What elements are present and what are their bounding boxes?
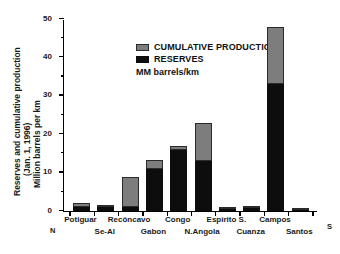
legend-swatch-reserves (136, 56, 149, 63)
bar-potiguar (73, 203, 90, 211)
plot-area: CUMULATIVE PRODUCTION RESERVES MM barrel… (63, 20, 317, 212)
bar-gabon (146, 160, 163, 211)
legend-entry-reserves: RESERVES (136, 54, 277, 64)
y-tick-minor (61, 191, 64, 192)
y-tick-label: 0 (48, 205, 52, 214)
y-tick-major: 10 (59, 171, 64, 172)
bar-santos (292, 208, 309, 211)
y-axis-title-line-2: (Jan. 1, 1996) (22, 123, 32, 176)
bar-segment-reserves (146, 169, 163, 211)
legend-entry-cumulative-production: CUMULATIVE PRODUCTION (136, 42, 277, 52)
y-tick-major: 40 (59, 56, 64, 57)
bar-campos (267, 27, 284, 211)
y-tick-minor (61, 152, 64, 153)
y-tick-major: 20 (59, 133, 64, 134)
x-axis-label-campos: Campos (259, 215, 291, 224)
x-axis-label-se-al: Se-Al (95, 227, 115, 236)
bar-segment-reserves (97, 207, 114, 211)
y-tick-label: 40 (43, 52, 52, 61)
bar-segment-cumulative-production (195, 123, 212, 161)
x-axis-label-potiguar: Potiguar (64, 215, 96, 224)
y-tick-major: 0 (59, 210, 64, 211)
axis-end-label-north: N (50, 226, 55, 235)
y-tick-label: 10 (43, 167, 52, 176)
y-tick-minor (61, 37, 64, 38)
bar-segment-cumulative-production (122, 177, 139, 207)
bar-n-angola (195, 123, 212, 211)
legend-label-cumulative-production: CUMULATIVE PRODUCTION (154, 42, 277, 52)
x-axis-label-esp-rito-s: Espírito S. (207, 215, 247, 224)
legend-swatch-cumulative-production (136, 44, 149, 51)
bar-segment-reserves (267, 84, 284, 211)
bar-segment-reserves (170, 150, 187, 211)
legend-units-note: MM barrels/km (136, 67, 277, 77)
y-axis-title-line-1: Reserves and cumulative production (12, 47, 22, 196)
y-tick-major: 30 (59, 94, 64, 95)
bar-cuanza (243, 206, 260, 211)
bar-segment-cumulative-production (146, 160, 163, 169)
bar-esp-rito-s (219, 207, 236, 211)
bar-segment-reserves (73, 207, 90, 211)
bar-segment-reserves (122, 207, 139, 211)
y-tick-label: 50 (43, 13, 52, 22)
x-axis-label-rec-ncavo: Recôncavo (108, 215, 151, 224)
y-tick-minor (61, 75, 64, 76)
x-axis-label-n-angola: N.Angola (184, 227, 219, 236)
x-axis-label-santos: Santos (286, 227, 313, 236)
chart-figure: Reserves and cumulative production (Jan.… (0, 0, 340, 254)
y-tick-major: 50 (59, 18, 64, 19)
x-tick (191, 211, 192, 216)
y-tick-label: 30 (43, 90, 52, 99)
x-axis-label-gabon: Gabon (141, 227, 166, 236)
x-axis-label-congo: Congo (165, 215, 190, 224)
bar-rec-ncavo (122, 177, 139, 211)
bar-segment-cumulative-production (267, 27, 284, 85)
bar-segment-reserves (195, 161, 212, 211)
bar-segment-reserves (292, 210, 309, 211)
bar-congo (170, 146, 187, 211)
legend-label-reserves: RESERVES (154, 54, 204, 64)
x-axis-label-cuanza: Cuanza (236, 227, 264, 236)
bar-segment-reserves (219, 209, 236, 211)
bar-se-al (97, 205, 114, 211)
y-tick-label: 20 (43, 128, 52, 137)
x-tick (312, 211, 313, 216)
y-axis-title-line-3: Million barrels per km (32, 100, 42, 188)
axis-end-label-south: S (327, 222, 332, 231)
bar-segment-reserves (243, 208, 260, 211)
chart-legend: CUMULATIVE PRODUCTION RESERVES MM barrel… (136, 42, 277, 77)
y-tick-minor (61, 114, 64, 115)
